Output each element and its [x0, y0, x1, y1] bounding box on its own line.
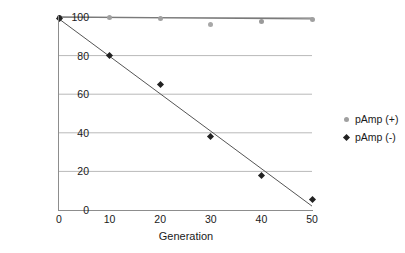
- diamond-marker-icon: [340, 135, 352, 140]
- chart-figure: 100 80 60 40 20 0 0 10 20 30 40 50 Gener…: [0, 0, 405, 253]
- x-tick-40: 40: [246, 213, 276, 225]
- x-tick-20: 20: [145, 213, 175, 225]
- legend-entry-pamp-plus[interactable]: pAmp (+): [340, 110, 398, 128]
- legend-entry-pamp-minus[interactable]: pAmp (-): [340, 128, 398, 146]
- y-tick-20: 20: [77, 166, 89, 176]
- circle-marker-icon: [340, 117, 352, 122]
- y-axis-line: [58, 16, 59, 211]
- x-axis-title: Generation: [0, 230, 372, 242]
- y-tick-60: 60: [77, 89, 89, 99]
- chart-legend: pAmp (+) pAmp (-): [340, 110, 398, 146]
- y-tick-100: 100: [71, 12, 89, 22]
- x-tick-0: 0: [44, 213, 74, 225]
- x-tick-10: 10: [95, 213, 125, 225]
- datapoint-pamp-plus-gen50: [310, 17, 315, 22]
- trendline-pamp-plus: [59, 17, 312, 19]
- x-axis-line: [58, 210, 313, 211]
- y-tick-0: 0: [83, 205, 89, 215]
- datapoint-pamp-minus-gen40: [258, 172, 265, 179]
- datapoint-pamp-minus-gen50: [308, 196, 315, 203]
- datapoint-pamp-minus-gen0: [55, 15, 62, 22]
- datapoint-pamp-minus-gen20: [157, 81, 164, 88]
- x-tick-30: 30: [196, 213, 226, 225]
- y-tick-80: 80: [77, 51, 89, 61]
- trendline-pamp-minus: [59, 19, 312, 206]
- plot-area: [59, 17, 312, 210]
- y-tick-40: 40: [77, 128, 89, 138]
- legend-label-pamp-minus: pAmp (-): [355, 131, 396, 143]
- legend-label-pamp-plus: pAmp (+): [355, 113, 398, 125]
- x-tick-50: 50: [297, 213, 327, 225]
- trendlines-layer: [59, 17, 312, 210]
